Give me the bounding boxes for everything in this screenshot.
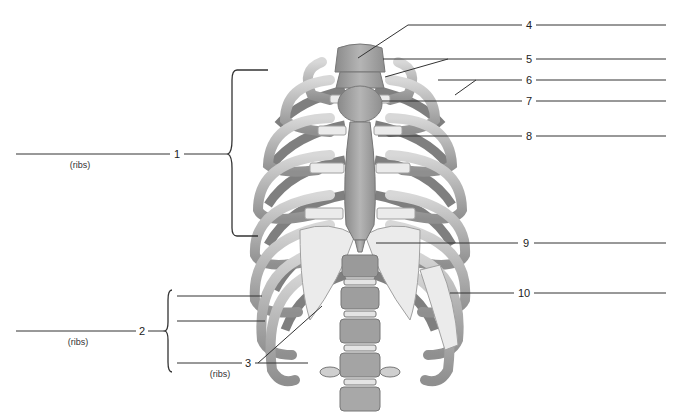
label-9-number: 9 bbox=[521, 237, 531, 249]
label-6-number: 6 bbox=[524, 74, 534, 86]
label-1-sublabel: (ribs) bbox=[70, 160, 91, 170]
label-3-number: 3 bbox=[243, 357, 253, 369]
rib-cage-diagram: 1 (ribs) 2 (ribs) 3 (ribs) 4 5 6 7 8 9 1… bbox=[0, 0, 680, 413]
label-8-number: 8 bbox=[524, 130, 534, 142]
label-4-number: 4 bbox=[524, 19, 534, 31]
label-2-number: 2 bbox=[137, 325, 147, 337]
label-7-number: 7 bbox=[524, 95, 534, 107]
label-2-sublabel: (ribs) bbox=[68, 337, 89, 347]
label-3-sublabel: (ribs) bbox=[210, 369, 231, 379]
rib-cage-illustration bbox=[0, 0, 680, 413]
sternum bbox=[335, 44, 385, 252]
label-5-number: 5 bbox=[524, 53, 534, 65]
label-10-number: 10 bbox=[516, 287, 532, 299]
label-1-number: 1 bbox=[172, 148, 182, 160]
